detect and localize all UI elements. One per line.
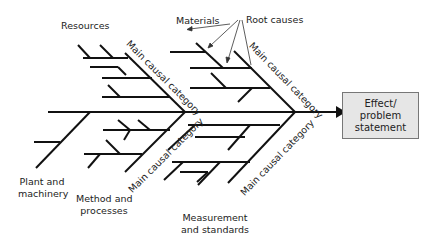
root-causes-label: Root causes (246, 14, 303, 26)
measurement-standards-label: Measurement and standards (180, 212, 250, 236)
method-processes-label: Method and processes (76, 193, 132, 217)
effect-box: Effect/ problem statement (342, 92, 419, 139)
materials-label: Materials (176, 15, 220, 27)
resources-label: Resources (61, 20, 110, 32)
plant-machinery-label: Plant and machinery (18, 176, 66, 200)
bone-lower-far-left (36, 112, 90, 168)
